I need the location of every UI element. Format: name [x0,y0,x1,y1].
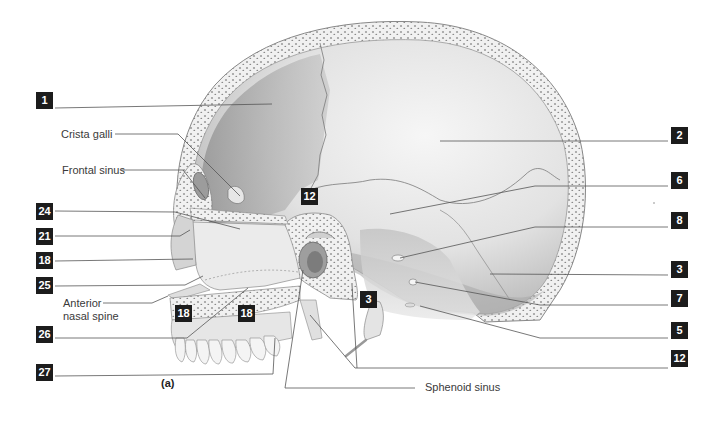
label-box-18-inner-left: 18 [175,305,192,322]
label-box-5: 5 [671,322,688,339]
label-box-12-inner: 12 [301,188,318,205]
label-box-26: 26 [36,326,53,343]
label-box-2: 2 [671,127,688,144]
label-box-7: 7 [671,290,688,307]
label-frontal-sinus: Frontal sinus [62,164,125,177]
label-box-8: 8 [671,212,688,229]
label-box-18: 18 [36,252,53,269]
label-box-25: 25 [36,277,53,294]
label-crista-galli: Crista galli [61,128,112,141]
label-box-3-inner: 3 [360,291,377,308]
label-box-27: 27 [36,364,53,381]
label-box-6: 6 [671,172,688,189]
teeth [175,336,280,364]
label-box-21: 21 [36,228,53,245]
skull-diagram [0,0,723,421]
label-box-24: 24 [36,203,53,220]
label-box-12: 12 [671,350,688,367]
label-box-18-inner-right: 18 [238,305,255,322]
label-anterior-nasal-spine-line2: nasal spine [63,310,119,323]
label-box-1: 1 [36,92,53,109]
label-box-3: 3 [671,261,688,278]
figure-caption: (a) [161,377,174,389]
label-anterior-nasal-spine-line1: Anterior [63,297,102,310]
label-sphenoid-sinus: Sphenoid sinus [425,381,500,394]
